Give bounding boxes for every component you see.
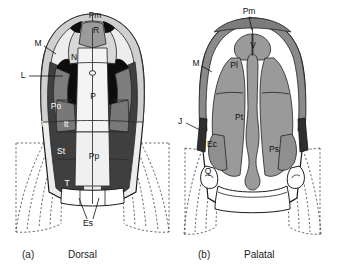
- pineal-foramen: [89, 71, 95, 76]
- palatal-quadrate-right: [287, 166, 304, 188]
- palatal-label-Ps: Ps: [269, 144, 279, 154]
- dorsal-label-L: L: [21, 70, 26, 80]
- dorsal-label-Po: Po: [51, 101, 62, 111]
- palatal-label-Q: Q: [205, 166, 212, 176]
- palatal-label-Ec: Ec: [207, 139, 218, 149]
- figure-captions: (a) Dorsal (b) Palatal: [22, 249, 275, 260]
- palatal-label-V: V: [250, 40, 256, 50]
- skull-figure: Pm R M N L P Po J It St Pp T Es: [0, 0, 342, 274]
- panel-palatal: Pm V M Pl Pt J Ec Ps Q: [178, 6, 321, 234]
- palatal-jugal-right: [298, 118, 308, 152]
- dorsal-label-St: St: [57, 146, 66, 156]
- palatal-label-Pm: Pm: [243, 6, 256, 16]
- dorsal-label-N: N: [71, 52, 77, 62]
- panel-dorsal: Pm R M N L P Po J It St Pp T Es: [16, 10, 169, 232]
- dorsal-label-Es: Es: [83, 218, 93, 228]
- dorsal-postorbital-right: [109, 100, 129, 132]
- dorsal-label-J: J: [39, 119, 43, 129]
- dorsal-label-M: M: [34, 38, 41, 48]
- palatal-label-Pt: Pt: [235, 112, 244, 122]
- palatal-label-M: M: [192, 58, 199, 68]
- caption-a-text: Dorsal: [68, 249, 97, 260]
- dorsal-label-R: R: [93, 25, 99, 35]
- caption-b-text: Palatal: [244, 249, 275, 260]
- palatal-label-Pl: Pl: [230, 60, 238, 70]
- dorsal-label-It: It: [64, 119, 69, 129]
- dorsal-label-Pp: Pp: [89, 151, 100, 161]
- caption-b-letter: (b): [198, 249, 210, 260]
- palatal-label-J: J: [178, 116, 182, 126]
- leader-J-palatal: [186, 123, 200, 130]
- palatal-jugal-left: [197, 118, 207, 152]
- dorsal-label-T: T: [64, 178, 69, 188]
- caption-a-letter: (a): [22, 249, 34, 260]
- dorsal-label-Pm: Pm: [89, 10, 102, 20]
- dorsal-label-P: P: [90, 91, 96, 101]
